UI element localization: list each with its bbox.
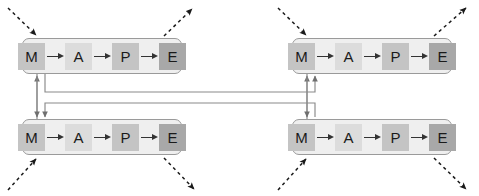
stage-plan[interactable]: P: [112, 43, 139, 70]
link-lower-bus: [45, 103, 315, 117]
stage-arrow-icon: [139, 132, 159, 142]
stage-arrow-icon: [362, 51, 382, 61]
stage-arrow-icon: [315, 132, 335, 142]
arrow-in-top-left: [8, 8, 36, 35]
stage-arrow-icon: [45, 132, 65, 142]
stage-monitor[interactable]: M: [288, 124, 315, 151]
stage-analyze[interactable]: A: [65, 43, 92, 70]
stage-plan[interactable]: P: [382, 43, 409, 70]
stage-execute[interactable]: E: [429, 124, 456, 151]
link-upper-bus: [45, 74, 315, 92]
stage-arrow-icon: [92, 132, 112, 142]
stage-monitor[interactable]: M: [288, 43, 315, 70]
arrow-out-top-left: [164, 9, 192, 36]
stage-analyze[interactable]: A: [65, 124, 92, 151]
stage-analyze[interactable]: A: [335, 43, 362, 70]
stage-execute[interactable]: E: [429, 43, 456, 70]
arrow-in-top-right: [278, 8, 306, 35]
connector-layer: [0, 0, 479, 196]
stage-plan[interactable]: P: [112, 124, 139, 151]
stage-monitor[interactable]: M: [18, 43, 45, 70]
pipeline-stages: M A P E: [288, 43, 456, 70]
stage-arrow-icon: [362, 132, 382, 142]
pipeline-bottom-right[interactable]: M A P E: [292, 119, 452, 155]
stage-arrow-icon: [92, 51, 112, 61]
pipeline-stages: M A P E: [18, 43, 186, 70]
stage-arrow-icon: [139, 51, 159, 61]
pipeline-stages: M A P E: [288, 124, 456, 151]
stage-plan[interactable]: P: [382, 124, 409, 151]
arrow-in-bottom-right: [278, 159, 306, 190]
pipeline-bottom-left[interactable]: M A P E: [22, 119, 182, 155]
stage-arrow-icon: [45, 51, 65, 61]
stage-analyze[interactable]: A: [335, 124, 362, 151]
stage-arrow-icon: [315, 51, 335, 61]
stage-arrow-icon: [409, 132, 429, 142]
arrow-out-top-right: [434, 8, 466, 36]
stage-monitor[interactable]: M: [18, 124, 45, 151]
pipeline-top-right[interactable]: M A P E: [292, 38, 452, 74]
pipeline-top-left[interactable]: M A P E: [22, 38, 182, 74]
arrow-out-bottom-left: [164, 158, 194, 189]
stage-arrow-icon: [409, 51, 429, 61]
arrow-in-bottom-left: [8, 159, 36, 190]
arrow-out-bottom-right: [434, 158, 466, 189]
diagram-canvas: M A P E M A P E M A P E: [0, 0, 479, 196]
stage-execute[interactable]: E: [159, 43, 186, 70]
stage-execute[interactable]: E: [159, 124, 186, 151]
pipeline-stages: M A P E: [18, 124, 186, 151]
